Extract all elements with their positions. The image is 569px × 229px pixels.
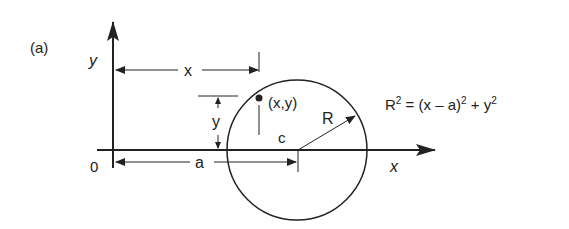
a-dim-label: a xyxy=(195,154,204,171)
origin-label: 0 xyxy=(90,158,98,175)
point-label: (x,y) xyxy=(268,94,297,111)
panel-label: (a) xyxy=(30,39,48,56)
x-axis-label: x xyxy=(389,158,399,175)
circle-diagram: (a) y x 0 x y a (x,y) c R R2 = (x – a)2 … xyxy=(0,0,569,229)
y-axis-label: y xyxy=(88,52,98,69)
x-dim-label: x xyxy=(184,62,192,79)
center-label: c xyxy=(278,129,286,146)
point-marker xyxy=(256,95,263,102)
y-dim-label: y xyxy=(212,113,220,130)
equation: R2 = (x – a)2 + y2 xyxy=(385,95,497,113)
radius-label: R xyxy=(322,110,334,127)
